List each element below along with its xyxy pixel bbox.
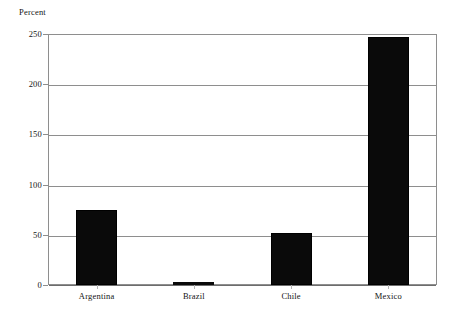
bar-mexico	[368, 37, 409, 285]
y-axis-title: Percent	[19, 7, 46, 18]
x-tick-mark-argentina	[97, 285, 98, 289]
y-tick-label-50: 50	[16, 231, 42, 240]
y-tick-label-250: 250	[16, 30, 42, 39]
gridline-0	[49, 285, 436, 286]
x-tick-mark-brazil	[194, 285, 195, 289]
bar-chile	[271, 233, 312, 285]
bar-argentina	[76, 210, 117, 285]
bar-chart-figure: Percent 050100150200250 ArgentinaBrazilC…	[0, 0, 454, 318]
bar-series	[48, 34, 437, 285]
x-tick-label-brazil: Brazil	[144, 291, 244, 301]
x-tick-label-chile: Chile	[241, 291, 341, 301]
y-tick-mark-0	[43, 285, 48, 286]
x-tick-mark-chile	[291, 285, 292, 289]
y-tick-label-150: 150	[16, 130, 42, 139]
x-tick-mark-mexico	[388, 285, 389, 289]
y-tick-label-200: 200	[16, 80, 42, 89]
x-tick-label-mexico: Mexico	[338, 291, 438, 301]
x-tick-label-argentina: Argentina	[47, 291, 147, 301]
y-tick-label-100: 100	[16, 181, 42, 190]
y-tick-label-0: 0	[16, 281, 42, 290]
